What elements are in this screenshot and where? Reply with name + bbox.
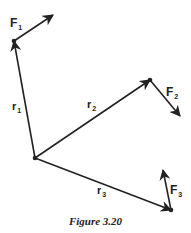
position-vector-r3: [35, 158, 171, 210]
label-r3: r3: [97, 184, 106, 198]
figure-caption: Figure 3.20: [0, 215, 191, 227]
label-r1: r1: [12, 100, 21, 114]
position-vector-r2: [35, 80, 150, 158]
point-F1: [12, 39, 17, 44]
point-F2: [148, 78, 153, 83]
label-F2: F2: [166, 85, 178, 100]
vector-diagram: r1r2r3F1F2F3: [0, 0, 191, 233]
point-F3: [169, 208, 174, 213]
origin-point: [33, 156, 38, 161]
label-r2: r2: [87, 98, 96, 112]
label-F1: F1: [10, 16, 22, 31]
label-F3: F3: [170, 183, 182, 198]
position-vector-r1: [14, 41, 35, 158]
